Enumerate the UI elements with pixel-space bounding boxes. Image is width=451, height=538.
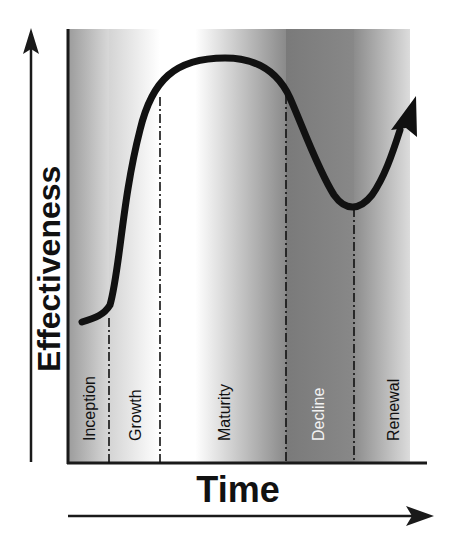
- phase-label-growth: Growth: [127, 389, 144, 441]
- life-cycle-diagram: Effectiveness Time Inception Growth Matu…: [0, 0, 451, 538]
- y-axis-label: Effectiveness: [31, 166, 67, 372]
- phase-label-decline: Decline: [310, 388, 327, 441]
- phase-label-maturity: Maturity: [216, 384, 233, 441]
- phase-label-renewal: Renewal: [385, 379, 402, 441]
- x-axis-label: Time: [196, 469, 279, 510]
- phase-label-inception: Inception: [81, 376, 98, 441]
